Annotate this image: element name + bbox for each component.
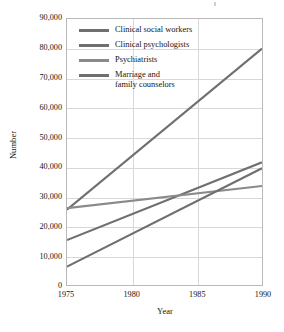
legend-swatch-icon [79,59,109,62]
x-axis-title: Year [66,306,264,316]
line-chart: Number Year 010,00020,00030,00040,00050,… [0,0,284,332]
y-tick-30000: 30,000 [8,192,62,201]
y-tick-50000: 50,000 [8,133,62,142]
legend-label: Marriage and family counselors [115,70,175,89]
legend-label: Clinical psychologists [115,40,189,50]
y-tick-20000: 20,000 [8,222,62,231]
x-tick-1980: 1980 [114,290,150,299]
chart-legend: Clinical social workersClinical psycholo… [79,25,255,95]
y-tick-80000: 80,000 [8,43,62,52]
y-tick-70000: 70,000 [8,73,62,82]
x-tick-1975: 1975 [48,290,84,299]
series-line-1 [67,162,262,240]
legend-swatch-icon [79,44,109,47]
series-line-2 [67,186,262,208]
legend-swatch-icon [79,29,109,32]
series-line-3 [67,168,262,266]
y-tick-40000: 40,000 [8,162,62,171]
legend-label: Clinical social workers [115,25,192,35]
y-tick-10000: 10,000 [8,252,62,261]
legend-item-3: Marriage and family counselors [79,70,255,89]
x-tick-1990: 1990 [245,290,281,299]
legend-label: Psychiatrists [115,55,157,65]
legend-item-1: Clinical psychologists [79,40,255,50]
stray-mark [214,2,216,6]
x-tick-1985: 1985 [179,290,215,299]
plot-area: Clinical social workersClinical psycholo… [66,18,263,286]
legend-item-0: Clinical social workers [79,25,255,35]
legend-item-2: Psychiatrists [79,55,255,65]
legend-swatch-icon [79,74,109,77]
y-tick-90000: 90,000 [8,13,62,22]
y-tick-60000: 60,000 [8,103,62,112]
